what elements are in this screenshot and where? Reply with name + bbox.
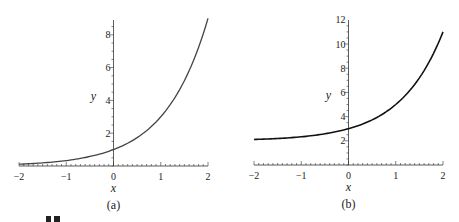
y-tick-label: 4 <box>106 95 111 106</box>
x-tick-label: 2 <box>206 171 211 182</box>
panel-label: (a) <box>107 198 120 212</box>
y-axis-label: y <box>325 88 332 102</box>
x-tick-label: 1 <box>393 170 398 181</box>
y-axis-label: y <box>90 89 97 103</box>
panel-label: (b) <box>342 197 356 211</box>
x-axis-label: x <box>110 181 117 195</box>
x-axis-label: x <box>345 180 352 194</box>
y-tick-label: 6 <box>341 87 346 98</box>
cropped-text-fragment <box>46 216 66 222</box>
y-tick-label: 4 <box>341 111 346 122</box>
y-tick-label: 6 <box>106 62 111 73</box>
y-tick-label: 8 <box>106 29 111 40</box>
x-tick-label: −2 <box>249 170 260 181</box>
x-tick-label: 1 <box>158 171 163 182</box>
x-tick-label: 2 <box>441 170 446 181</box>
x-tick-label: −1 <box>61 171 72 182</box>
x-tick-label: −2 <box>14 171 25 182</box>
y-tick-label: 12 <box>336 14 346 25</box>
chart-panel-a: −2−10122468xy(a) <box>14 18 211 212</box>
y-tick-label: 2 <box>106 128 111 139</box>
y-tick-label: 10 <box>336 39 346 50</box>
y-tick-label: 8 <box>341 63 346 74</box>
chart-panel-b: −2−101224681012xy(b) <box>249 14 446 211</box>
x-tick-label: −1 <box>296 170 307 181</box>
y-tick-label: 2 <box>341 135 346 146</box>
figure: −2−10122468xy(a) −2−101224681012xy(b) <box>0 0 459 222</box>
